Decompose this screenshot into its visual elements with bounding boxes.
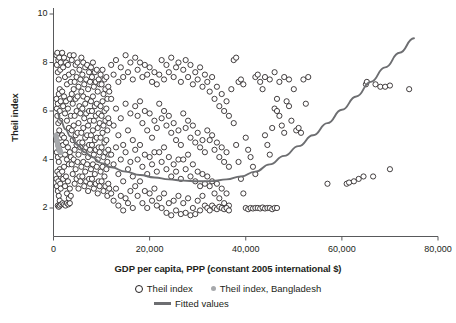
data-point [217, 154, 222, 159]
y-tick-label: 2 [18, 202, 48, 212]
data-point [57, 128, 62, 133]
x-tick-label: 40,000 [216, 244, 276, 254]
data-point [164, 62, 169, 67]
data-point [130, 138, 135, 143]
data-point [205, 174, 210, 179]
data-point [286, 104, 291, 109]
data-point [89, 142, 94, 147]
data-point [356, 176, 361, 181]
data-point [181, 157, 186, 162]
data-point [75, 94, 80, 99]
data-point [101, 91, 106, 96]
data-point [289, 118, 294, 123]
data-point [121, 208, 126, 213]
data-point [133, 147, 138, 152]
data-point [69, 57, 74, 62]
data-point [76, 84, 81, 89]
data-point [111, 198, 116, 203]
data-point [185, 74, 190, 79]
data-point [105, 128, 110, 133]
data-point [99, 179, 104, 184]
data-point [91, 84, 96, 89]
data-point [72, 113, 77, 118]
data-point [69, 91, 74, 96]
data-point [152, 118, 157, 123]
data-point [282, 74, 287, 79]
data-point [166, 201, 171, 206]
data-point [118, 157, 123, 162]
data-point [100, 67, 105, 72]
legend-label-fitted-values: Fitted values [175, 298, 229, 309]
data-point [99, 113, 104, 118]
data-point [200, 84, 205, 89]
data-point [190, 123, 195, 128]
data-point [274, 96, 279, 101]
y-tick-label: 8 [18, 57, 48, 67]
data-point [87, 181, 92, 186]
data-point [86, 188, 91, 193]
data-point [90, 128, 95, 133]
x-tick-label: 20,000 [120, 244, 180, 254]
data-point [157, 101, 162, 106]
data-point [157, 150, 162, 155]
data-point [152, 70, 157, 75]
data-point [79, 89, 84, 94]
data-point [70, 70, 75, 75]
data-point [351, 179, 356, 184]
data-point [190, 162, 195, 167]
data-point [90, 60, 95, 65]
y-tick-label: 6 [18, 105, 48, 115]
data-point [183, 210, 188, 215]
data-point [89, 74, 94, 79]
data-point [202, 150, 207, 155]
data-point [98, 72, 103, 77]
data-point [75, 60, 80, 65]
data-point [157, 72, 162, 77]
data-point [267, 77, 272, 82]
open-circle-marker-icon [135, 285, 143, 293]
data-point [222, 159, 227, 164]
data-point [277, 113, 282, 118]
data-point [185, 152, 190, 157]
data-point [166, 154, 171, 159]
data-point [104, 106, 109, 111]
legend-label-theil-index-bangladesh: Theil index, Bangladesh [220, 283, 321, 294]
data-point [95, 125, 100, 130]
data-point [116, 79, 121, 84]
data-point [195, 77, 200, 82]
data-point [102, 174, 107, 179]
data-point [135, 193, 140, 198]
x-tick-label: 80,000 [408, 244, 456, 254]
data-point [231, 121, 236, 126]
data-point [145, 72, 150, 77]
data-point [130, 205, 135, 210]
data-point [86, 70, 91, 75]
data-point [118, 193, 123, 198]
data-point [135, 113, 140, 118]
data-point [197, 208, 202, 213]
data-point [178, 79, 183, 84]
data-point [80, 106, 85, 111]
data-point [88, 99, 93, 104]
data-point [166, 70, 171, 75]
line-marker-icon [154, 302, 171, 304]
data-point [159, 159, 164, 164]
data-point [190, 82, 195, 87]
legend-label-theil-index: Theil index [147, 283, 193, 294]
data-point [58, 99, 63, 104]
data-point [279, 123, 284, 128]
data-point [183, 125, 188, 130]
data-point [229, 87, 234, 92]
y-tick-label: 10 [18, 8, 48, 18]
data-point [86, 87, 91, 92]
data-point [178, 142, 183, 147]
data-point [214, 84, 219, 89]
data-point [106, 116, 111, 121]
data-point [173, 65, 178, 70]
data-point [212, 147, 217, 152]
data-point [219, 145, 224, 150]
data-point [210, 74, 215, 79]
data-point [98, 104, 103, 109]
data-point [62, 111, 67, 116]
x-axis-title: GDP per capita, PPP (constant 2005 inter… [0, 263, 456, 274]
